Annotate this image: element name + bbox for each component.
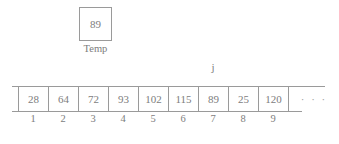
array-end-divider: [288, 86, 289, 112]
array-index-label: 1: [18, 114, 48, 125]
array-cell-value: 115: [175, 94, 191, 105]
array-cell: 115: [168, 86, 198, 112]
array-diagram: 89 Temp j 286472931021158925120 · · · 12…: [0, 0, 339, 144]
array-cell: 64: [48, 86, 78, 112]
array-index-label: 3: [78, 114, 108, 125]
array-cell-value: 102: [145, 94, 162, 105]
array-index-label: 7: [198, 114, 228, 125]
array-cell-value: 25: [238, 94, 249, 105]
array-cell: 120: [258, 86, 288, 112]
pointer-label-j: j: [198, 62, 228, 73]
array-cell-value: 120: [265, 94, 282, 105]
array-index-label: 6: [168, 114, 198, 125]
array-cell: 28: [18, 86, 48, 112]
array-cells: 286472931021158925120: [18, 86, 288, 112]
array-cell: 102: [138, 86, 168, 112]
temp-variable-value: 89: [90, 19, 101, 30]
array-index-label: 5: [138, 114, 168, 125]
array-cell-value: 89: [208, 94, 219, 105]
array-cell-value: 64: [58, 94, 69, 105]
temp-variable-box: 89: [79, 7, 112, 41]
temp-variable-label: Temp: [79, 44, 112, 55]
temp-variable-group: 89 Temp: [79, 7, 112, 55]
array-index-label: 4: [108, 114, 138, 125]
array-cell: 89: [198, 86, 228, 112]
array-index-row: 123456789: [18, 114, 288, 125]
array-cell-value: 93: [118, 94, 129, 105]
array-cell-value: 72: [88, 94, 99, 105]
array-cell: 72: [78, 86, 108, 112]
array-continuation-ellipsis: · · ·: [294, 86, 334, 112]
array-index-label: 2: [48, 114, 78, 125]
array-index-label: 9: [258, 114, 288, 125]
array-index-label: 8: [228, 114, 258, 125]
array-cell: 93: [108, 86, 138, 112]
array-cell: 25: [228, 86, 258, 112]
array-cell-value: 28: [28, 94, 39, 105]
